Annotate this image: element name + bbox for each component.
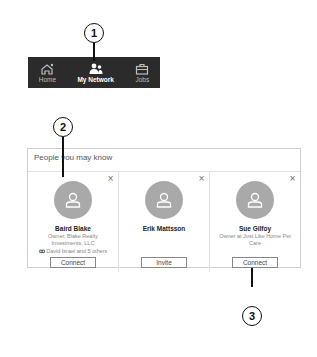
mutual-connections-icon: ꝏ	[39, 248, 45, 254]
dismiss-icon[interactable]: ×	[107, 174, 114, 183]
people-you-may-know-panel: People you may know × Baird Blake Owner,…	[27, 148, 301, 268]
suggestion-card: × Sue Gilfoy Owner at Just Like Home Pet…	[210, 172, 300, 272]
callout-3: 3	[242, 306, 262, 326]
callout-1: 1	[84, 23, 104, 43]
suggestion-card: × Baird Blake Owner, Blake Realty Invest…	[28, 172, 119, 272]
nav-item-jobs[interactable]: Jobs	[135, 63, 149, 83]
mutual-connections-text: David Israel and 5 others	[46, 248, 107, 254]
avatar[interactable]	[54, 181, 92, 219]
callout-2-leader	[62, 137, 64, 177]
avatar[interactable]	[145, 181, 183, 219]
suggestion-cards: × Baird Blake Owner, Blake Realty Invest…	[28, 172, 300, 272]
callout-1-leader	[93, 43, 95, 61]
top-nav-bar: Home My Network Jobs	[28, 57, 160, 88]
dismiss-icon[interactable]: ×	[289, 174, 296, 183]
connect-button[interactable]: Connect	[232, 257, 278, 268]
person-name[interactable]: Sue Gilfoy	[239, 225, 271, 232]
dismiss-icon[interactable]: ×	[198, 174, 205, 183]
nav-label-jobs: Jobs	[135, 76, 149, 83]
briefcase-icon	[135, 63, 149, 75]
callout-2: 2	[53, 117, 73, 137]
nav-label-my-network: My Network	[77, 76, 113, 83]
person-headline: Owner at Just Like Home Pet Care	[217, 233, 293, 247]
connect-button[interactable]: Connect	[50, 257, 96, 268]
invite-button[interactable]: Invite	[141, 257, 187, 268]
person-headline: Owner, Blake Realty Investments, LLC	[35, 233, 111, 247]
person-name[interactable]: Baird Blake	[55, 225, 91, 232]
mutual-connections: ꝏ David Israel and 5 others	[38, 248, 108, 255]
nav-label-home: Home	[39, 76, 56, 83]
panel-title: People you may know	[28, 149, 300, 172]
person-placeholder-icon	[64, 191, 82, 209]
avatar[interactable]	[236, 181, 274, 219]
nav-item-home[interactable]: Home	[39, 63, 56, 83]
home-icon	[40, 63, 54, 75]
nav-item-my-network[interactable]: My Network	[77, 63, 113, 83]
person-name[interactable]: Erik Mattsson	[143, 225, 186, 232]
network-icon	[89, 63, 103, 75]
person-placeholder-icon	[246, 191, 264, 209]
person-placeholder-icon	[155, 191, 173, 209]
suggestion-card: × Erik Mattsson Invite	[119, 172, 210, 272]
